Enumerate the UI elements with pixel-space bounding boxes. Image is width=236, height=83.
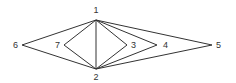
graph-node-labels: 1234567 [13,5,221,82]
node-label-5: 5 [216,40,221,50]
node-label-2: 2 [93,72,98,82]
graph-edges [22,20,212,69]
edge-2-7 [64,45,96,69]
edge-1-4 [96,20,157,45]
graph-diagram: 1234567 [0,0,236,83]
node-label-1: 1 [93,5,98,15]
edge-2-5 [96,45,212,69]
node-label-6: 6 [13,40,18,50]
edge-2-4 [96,45,157,69]
edge-1-7 [64,20,96,45]
node-label-7: 7 [55,40,60,50]
node-label-3: 3 [131,40,136,50]
edge-1-5 [96,20,212,45]
node-label-4: 4 [163,40,168,50]
